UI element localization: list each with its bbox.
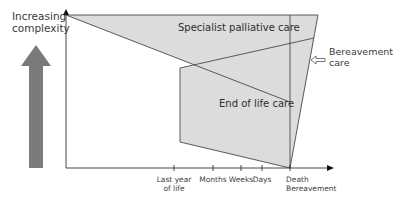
bereavement-label-line2: care	[329, 58, 393, 69]
tick-label-line2: of life	[154, 185, 194, 194]
bereavement-pointer-arrow-icon	[311, 56, 325, 64]
end-of-life-care-label: End of life care	[219, 98, 294, 110]
tick-label-line1: Days	[247, 176, 277, 185]
tick-label-death-bereavement: Death Bereavement	[286, 176, 337, 193]
x-axis-arrowhead-icon	[327, 165, 334, 171]
y-axis-label: Increasing complexity	[12, 10, 62, 34]
y-axis-label-line1: Increasing	[12, 10, 62, 22]
specialist-palliative-care-label: Specialist palliative care	[178, 22, 300, 34]
y-axis-label-line2: complexity	[12, 22, 62, 34]
tick-label-last-year: Last year of life	[154, 176, 194, 193]
tick-label-days: Days	[247, 176, 277, 185]
tick-label-line2: Bereavement	[286, 185, 337, 194]
increasing-complexity-arrow-icon	[21, 45, 51, 168]
care-complexity-diagram: Increasing complexity Specialist palliat…	[0, 0, 400, 205]
bereavement-care-label: Bereavement care	[329, 47, 393, 69]
